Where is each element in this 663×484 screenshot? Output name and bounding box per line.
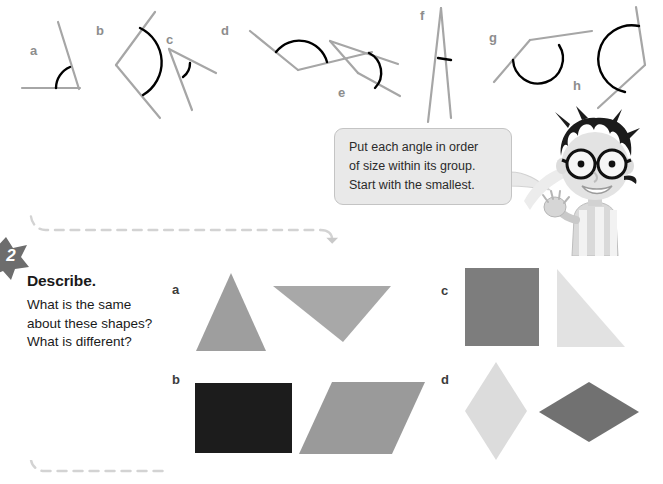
describe-line-2: about these shapes? — [27, 315, 177, 334]
dashed-divider-bottom — [28, 460, 168, 478]
angle-label-f: f — [420, 9, 424, 22]
instruction-speech-bubble: Put each angle in order of size within i… — [334, 128, 512, 205]
shape-rhombus-tall-light — [465, 362, 527, 460]
angle-label-g: g — [489, 31, 497, 44]
bubble-line-2: of size within its group. — [349, 157, 499, 176]
shirt-stripe-2 — [595, 207, 604, 256]
angle-f-arc — [438, 58, 451, 60]
shape-square-dark — [465, 268, 539, 346]
shape-triangle-down — [273, 286, 391, 342]
boy-character-illustration — [524, 106, 663, 256]
angle-d-ray-1 — [250, 31, 298, 70]
angle-label-d: d — [221, 24, 229, 37]
hair-spike-mid — [576, 106, 588, 120]
task-number: 2 — [0, 246, 22, 266]
angle-g-ray-2 — [530, 31, 592, 40]
shape-triangle-up — [196, 273, 266, 351]
character-eye-left — [578, 161, 585, 168]
describe-line-1: What is the same — [27, 296, 177, 315]
shirt-stripe-1 — [579, 210, 587, 256]
angle-b-ray-2 — [116, 65, 160, 118]
shape-right-triangle-light — [557, 269, 625, 347]
dashed-arrowhead — [326, 238, 338, 244]
describe-body: What is the same about these shapes? Wha… — [27, 296, 177, 352]
shape-row-label-b: b — [172, 373, 180, 386]
dashed-path — [31, 216, 321, 230]
angle-h-arc — [598, 25, 639, 92]
dashed-path-bottom — [31, 460, 166, 471]
hair-spike-far-right — [625, 128, 640, 140]
angle-f-ray-2 — [428, 8, 441, 122]
shape-row-label-d: d — [441, 373, 449, 386]
shape-rectangle-dark — [195, 383, 292, 453]
shape-row-label-a: a — [172, 283, 179, 296]
hair-spike-left — [555, 112, 570, 128]
worksheet-page: a b c d e f g h Put each angle in order … — [0, 0, 663, 484]
describe-line-3: What is different? — [27, 333, 177, 352]
angle-c-arc — [183, 63, 190, 77]
describe-heading: Describe. — [27, 272, 96, 290]
angle-h-ray-2 — [598, 65, 645, 108]
angle-label-h: h — [573, 79, 581, 92]
angle-b-arc — [140, 28, 162, 95]
character-eye-right — [609, 161, 616, 168]
angle-label-e: e — [338, 86, 345, 99]
shirt-stripe-3 — [610, 210, 617, 256]
shape-rhombus-wide-dark — [539, 382, 639, 442]
angle-h-ray-1 — [636, 7, 645, 65]
dashed-divider-top — [28, 214, 340, 244]
angle-label-a: a — [30, 44, 37, 57]
angle-d-ray-2 — [298, 52, 372, 70]
angle-f-ray-1 — [441, 8, 451, 118]
angle-label-c: c — [166, 33, 173, 46]
angle-label-b: b — [96, 24, 104, 37]
hair-spike-right — [612, 109, 622, 124]
angle-b-ray-1 — [116, 12, 155, 65]
shape-row-label-c: c — [441, 284, 448, 297]
shape-parallelogram — [299, 382, 425, 454]
angle-a-arc — [56, 67, 70, 88]
bubble-line-3: Start with the smallest. — [349, 176, 499, 195]
angle-a-ray-2 — [58, 22, 79, 89]
bubble-line-1: Put each angle in order — [349, 138, 499, 157]
